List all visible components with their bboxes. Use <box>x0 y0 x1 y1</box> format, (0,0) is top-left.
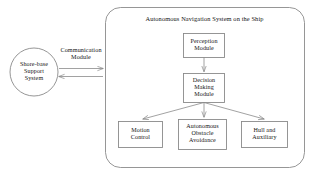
decision-label-line-1: Decision <box>183 77 225 84</box>
perception-label-line-2: Module <box>183 45 225 52</box>
decision-making-module-label: Decision Making Module <box>183 77 225 97</box>
communication-module-label: Communication Module <box>52 47 110 61</box>
obstacle-label-line-3: Avoidance <box>178 137 227 144</box>
shore-base-support-system-label: Shore-base Support System <box>10 61 58 81</box>
diagram-title: Autonomous Navigation System on the Ship <box>105 15 304 22</box>
hull-and-auxiliary-label: Hull and Auxiliary <box>241 127 288 141</box>
obstacle-label-line-1: Autonomous <box>178 123 227 130</box>
perception-label-line-1: Perception <box>183 38 225 45</box>
arrow-decision-to-hull-auxiliary <box>204 103 264 120</box>
perception-module-label: Perception Module <box>183 38 225 52</box>
autonomous-obstacle-avoidance-label: Autonomous Obstacle Avoidance <box>178 123 227 143</box>
decision-label-line-3: Module <box>183 91 225 98</box>
obstacle-label-line-2: Obstacle <box>178 130 227 137</box>
motion-control-label: Motion Control <box>118 127 163 141</box>
decision-label-line-2: Making <box>183 84 225 91</box>
diagram-vector-layer <box>0 0 319 176</box>
shore-label-line-1: Shore-base <box>10 61 58 68</box>
shore-label-line-3: System <box>10 75 58 82</box>
hull-label-line-2: Auxiliary <box>241 134 288 141</box>
arrow-decision-to-motion-control <box>143 103 204 120</box>
shore-label-line-2: Support <box>10 68 58 75</box>
motion-label-line-1: Motion <box>118 127 163 134</box>
navigation-system-diagram: Autonomous Navigation System on the Ship… <box>0 0 319 176</box>
hull-label-line-1: Hull and <box>241 127 288 134</box>
motion-label-line-2: Control <box>118 134 163 141</box>
communication-label-line-2: Module <box>52 54 110 61</box>
